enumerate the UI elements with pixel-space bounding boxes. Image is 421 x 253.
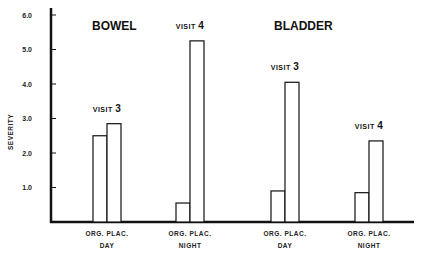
bar-category-labels: ORG. PLAC. [169,230,212,237]
bar-category-labels: ORG. PLAC. [86,230,129,237]
y-tick-label: 3.0 [22,115,32,122]
visit-label: VISIT 4 [176,20,205,31]
panel-title-bowel: BOWEL [92,19,137,33]
visit-label: VISIT 3 [93,103,122,114]
y-axis-label: SEVERITY [7,114,14,150]
bar-bladder-night-org [355,193,369,222]
severity-bar-chart: SEVERITY 1.02.03.04.05.06.0 BOWELBLADDER… [0,0,421,253]
y-tick-label: 4.0 [22,81,32,88]
bar-bowel-night-org [176,203,190,222]
bar-bladder-night-plac [369,141,383,222]
period-label: DAY [278,242,293,249]
bar-category-labels: ORG. PLAC. [264,230,307,237]
y-tick-label: 5.0 [22,46,32,53]
bar-bladder-day-plac [285,82,299,222]
visit-label: VISIT 3 [271,61,300,72]
y-tick-label: 1.0 [22,184,32,191]
y-tick-label: 2.0 [22,150,32,157]
period-label: NIGHT [179,242,202,249]
period-label: DAY [100,242,115,249]
visit-label: VISIT 4 [355,120,384,131]
bar-bowel-day-plac [107,124,121,222]
period-label: NIGHT [358,242,381,249]
bar-category-labels: ORG. PLAC. [348,230,391,237]
bar-bowel-night-plac [190,41,204,222]
bar-bladder-day-org [271,191,285,222]
bar-bowel-day-org [93,136,107,222]
panel-title-bladder: BLADDER [274,19,333,33]
y-tick-label: 6.0 [22,12,32,19]
